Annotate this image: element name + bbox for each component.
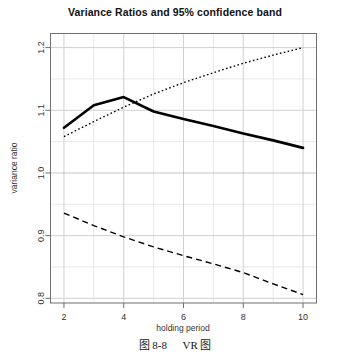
figure-container: Variance Ratios and 95% confidence band …	[0, 0, 350, 356]
y-tick-label: 0.8	[36, 292, 46, 305]
y-axis-ticks: 0.80.91.01.11.2	[36, 41, 51, 304]
figure-caption: 图 8-8 VR 图	[0, 336, 350, 352]
x-tick-label: 10	[298, 312, 308, 322]
x-axis-ticks: 246810	[61, 303, 308, 322]
x-tick-label: 4	[121, 312, 126, 322]
x-tick-label: 8	[241, 312, 246, 322]
y-tick-label: 0.9	[36, 229, 46, 242]
y-tick-label: 1.1	[36, 104, 46, 117]
y-axis-title: variance ratio	[9, 142, 19, 193]
grid-major-group	[51, 34, 317, 304]
x-tick-label: 6	[181, 312, 186, 322]
caption-number: 图 8-8	[139, 339, 167, 351]
y-tick-label: 1.2	[36, 41, 46, 54]
x-axis-title: holding period	[156, 323, 210, 333]
caption-title: VR 图	[182, 339, 211, 351]
variance-ratio-plot: 0.80.91.01.11.2 246810 holding period va…	[0, 0, 350, 336]
x-tick-label: 2	[61, 312, 66, 322]
y-tick-label: 1.0	[36, 167, 46, 180]
